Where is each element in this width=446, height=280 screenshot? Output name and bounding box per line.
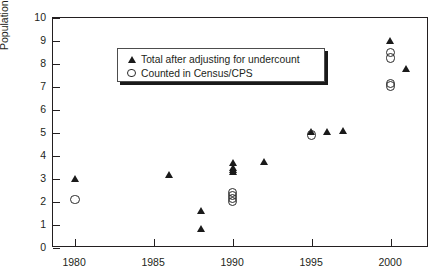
y-tick bbox=[53, 156, 60, 157]
scatter-chart-figure: Population (millions) Total after adjust… bbox=[0, 0, 446, 280]
data-point-circle bbox=[228, 197, 237, 206]
filled-triangle-icon bbox=[125, 56, 138, 63]
y-tick-label: 9 bbox=[0, 35, 46, 46]
y-tick-label: 1 bbox=[0, 219, 46, 230]
data-point-triangle bbox=[323, 128, 331, 135]
data-point-triangle bbox=[197, 207, 205, 214]
y-tick-label: 7 bbox=[0, 81, 46, 92]
open-circle-icon bbox=[125, 69, 138, 78]
y-tick bbox=[53, 179, 60, 180]
data-point-triangle bbox=[402, 65, 410, 72]
x-tick-label: 1995 bbox=[281, 257, 341, 268]
y-tick bbox=[53, 41, 60, 42]
data-point-circle bbox=[307, 130, 316, 139]
y-tick-label: 3 bbox=[0, 173, 46, 184]
data-point-triangle bbox=[165, 171, 173, 178]
y-tick-label: 5 bbox=[0, 127, 46, 138]
y-tick-label: 6 bbox=[0, 104, 46, 115]
y-tick-label: 8 bbox=[0, 58, 46, 69]
y-tick-label: 10 bbox=[0, 12, 46, 23]
x-tick-label: 1985 bbox=[123, 257, 183, 268]
plot-area: Total after adjusting for undercount Cou… bbox=[52, 17, 428, 247]
y-tick bbox=[53, 133, 60, 134]
data-point-triangle bbox=[71, 175, 79, 182]
y-tick bbox=[53, 202, 60, 203]
y-tick bbox=[53, 64, 60, 65]
x-tick bbox=[75, 239, 76, 246]
y-tick bbox=[53, 87, 60, 88]
y-tick bbox=[53, 225, 60, 226]
y-tick bbox=[53, 110, 60, 111]
legend-label-adjusted: Total after adjusting for undercount bbox=[141, 54, 300, 65]
x-tick-label: 2000 bbox=[360, 257, 420, 268]
x-tick-label: 1980 bbox=[44, 257, 104, 268]
legend-label-counted: Counted in Census/CPS bbox=[141, 68, 253, 79]
x-tick bbox=[154, 239, 155, 246]
x-tick bbox=[391, 239, 392, 246]
x-tick-label: 1990 bbox=[202, 257, 262, 268]
chart-legend: Total after adjusting for undercount Cou… bbox=[117, 48, 325, 82]
y-tick-label: 4 bbox=[0, 150, 46, 161]
x-tick bbox=[312, 239, 313, 246]
y-tick bbox=[53, 248, 60, 249]
y-tick bbox=[53, 18, 60, 19]
legend-entry-counted: Counted in Census/CPS bbox=[125, 66, 324, 80]
data-point-triangle bbox=[260, 158, 268, 165]
data-point-circle bbox=[386, 81, 395, 90]
x-tick bbox=[233, 239, 234, 246]
data-point-triangle bbox=[197, 225, 205, 232]
data-point-triangle bbox=[229, 168, 237, 175]
data-point-triangle bbox=[339, 127, 347, 134]
data-point-circle bbox=[386, 53, 395, 62]
legend-entry-adjusted: Total after adjusting for undercount bbox=[125, 52, 324, 66]
data-point-circle bbox=[70, 195, 79, 204]
y-tick-label: 2 bbox=[0, 196, 46, 207]
data-point-triangle bbox=[386, 37, 394, 44]
y-tick-label: 0 bbox=[0, 242, 46, 253]
